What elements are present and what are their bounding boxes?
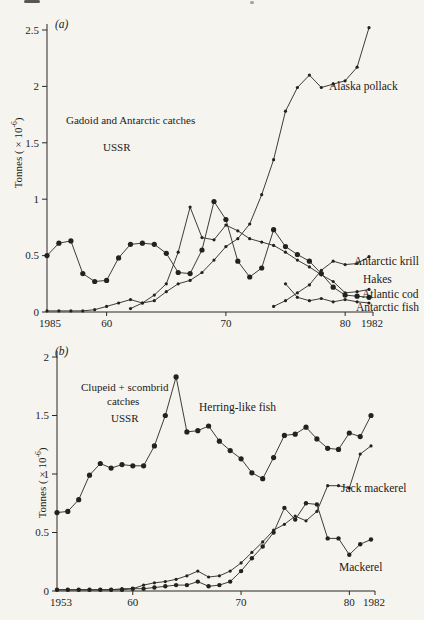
y-tick-label: 1 [34,193,40,205]
data-point [109,466,114,471]
x-tick-label: 70 [220,317,232,329]
data-point [217,583,221,587]
data-point [314,436,319,441]
data-point [296,259,299,262]
data-point [104,278,109,283]
data-point [152,585,156,589]
data-point [260,241,263,244]
data-point [359,453,362,456]
panel-a-plot: 00.511.522.560708019851982 [25,24,383,329]
y-axis-label-exponent: -6 [10,121,19,127]
x-tick-label: 80 [340,317,352,329]
data-point [283,523,286,526]
panel-a-annotation-title: Gadoid and Antarctic catches [66,114,195,126]
data-point [293,432,298,437]
data-point [326,536,330,540]
data-point [261,540,264,543]
data-point [320,297,323,300]
y-tick-label: 0.5 [35,526,49,538]
data-point [185,574,188,577]
data-point [218,574,221,577]
data-point [295,252,300,257]
data-point [303,425,308,430]
data-point [117,301,120,304]
data-point [109,588,113,592]
data-point [116,255,121,260]
data-point [250,551,253,554]
series-label-atlantic-cod: Atlantic cod [362,288,419,300]
data-point [240,561,243,564]
series-line [47,28,369,311]
data-point [189,279,192,282]
data-point [223,217,228,222]
y-tick-label: 0.5 [25,249,39,261]
panel-a-label: (a) [55,18,68,30]
series-line [131,207,370,309]
y-axis-label-close: ) [12,118,24,122]
data-point [76,497,81,502]
data-point [356,290,359,293]
data-point [163,584,167,588]
data-point [228,448,233,453]
data-point [120,588,124,592]
data-point [65,509,70,514]
data-point [236,237,239,240]
data-point [344,263,347,266]
data-point [308,283,311,286]
data-point [320,86,323,89]
data-point [228,579,232,583]
data-point [336,447,341,452]
data-point [55,588,59,592]
data-point [56,241,61,246]
data-point [217,439,222,444]
data-point [358,542,362,546]
data-point [98,461,103,466]
data-point [142,584,145,587]
data-point [272,158,275,161]
data-point [283,244,288,249]
data-point [119,462,124,467]
data-point [325,446,330,451]
data-point [93,308,96,311]
data-point [105,305,108,308]
data-point [196,570,199,573]
data-point [68,238,73,243]
data-point [224,245,227,248]
data-point [261,544,265,548]
data-point [344,298,347,301]
data-point [315,510,318,513]
data-point [87,473,92,478]
data-point [77,588,81,592]
data-point [293,517,297,521]
x-last-label: 1982 [361,317,383,329]
data-point [369,537,373,541]
data-point [284,251,287,254]
data-point [92,279,97,284]
data-point [188,271,193,276]
data-point [308,265,311,268]
series-label-antarctic-krill: Antarctic krill [354,255,419,267]
data-point [284,282,287,285]
x-tick-label: 60 [127,596,139,608]
data-point [54,510,59,515]
data-point [271,530,275,534]
series-label-mackerel: Mackerel [339,561,382,573]
panel-b-annotation-title: Clupeid + scombrid [81,381,168,393]
data-point [189,206,192,209]
data-point [307,259,312,264]
data-point [212,259,215,262]
data-point [337,484,340,487]
data-point [140,241,145,246]
series-label-hakes: Hakes [363,273,392,285]
x-tick-label: 60 [101,317,113,329]
data-point [369,444,372,447]
data-point [175,578,178,581]
data-point [235,259,240,264]
series-label-antarctic-fish: Antarctic fish [356,301,419,313]
y-axis-label-text: Tonnes ( × 10 [12,128,24,189]
data-point [271,455,276,460]
data-point [282,506,286,510]
data-point [332,280,335,283]
data-point [284,110,287,113]
data-point [165,290,168,293]
